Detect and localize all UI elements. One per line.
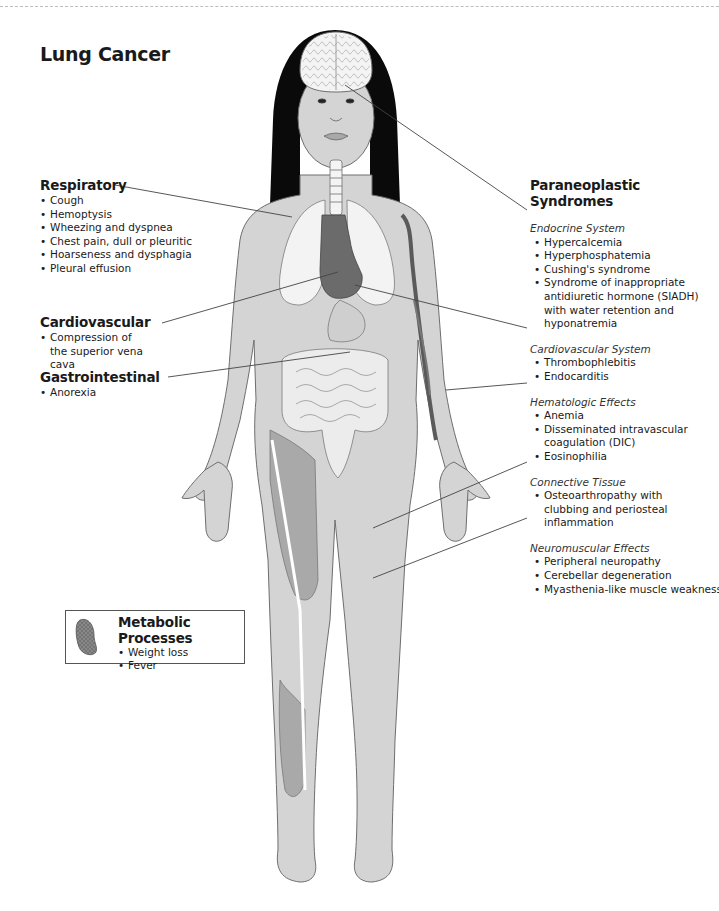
list-item: Syndrome of inappropriate antidiuretic h… (534, 276, 704, 330)
paraneoplastic-section: Paraneoplastic Syndromes Endocrine Syste… (530, 177, 715, 608)
group-title: Neuromuscular Effects (530, 542, 715, 556)
metabolic-processes-box: Metabolic Processes Weight loss Fever (65, 610, 245, 664)
list-item: Compression of the superior vena cava (40, 331, 150, 372)
gastrointestinal-heading: Gastrointestinal (40, 369, 170, 385)
cardiovascular-list: Compression of the superior vena cava (40, 331, 150, 372)
list-item: Anorexia (40, 386, 170, 400)
metabolic-text: Metabolic Processes Weight loss Fever (118, 614, 244, 672)
hematologic-group: Hematologic Effects Anemia Disseminated … (530, 396, 715, 464)
cardiovascular-system-group: Cardiovascular System Thrombophlebitis E… (530, 343, 715, 384)
cardiovascular-heading: Cardiovascular (40, 314, 150, 330)
left-hand (440, 462, 490, 541)
group-title: Cardiovascular System (530, 343, 715, 357)
group-title: Hematologic Effects (530, 396, 715, 410)
list-item: Endocarditis (534, 370, 715, 384)
list-item: Hoarseness and dysphagia (40, 248, 220, 262)
list-item: Wheezing and dyspnea (40, 221, 220, 235)
neuromuscular-group: Neuromuscular Effects Peripheral neuropa… (530, 542, 715, 596)
list-item: Eosinophilia (534, 450, 715, 464)
connective-tissue-group: Connective Tissue Osteoarthropathy with … (530, 476, 715, 530)
respiratory-heading: Respiratory (40, 177, 220, 193)
list-item: Cushing's syndrome (534, 263, 715, 277)
list-item: Myasthenia-like muscle weakness (534, 583, 715, 597)
list-item: Osteoarthropathy with clubbing and perio… (534, 489, 709, 530)
mitochondrion-icon (74, 617, 100, 657)
group-title: Endocrine System (530, 222, 715, 236)
gastrointestinal-list: Anorexia (40, 386, 170, 400)
trachea (330, 160, 342, 215)
list-item: Thrombophlebitis (534, 356, 715, 370)
list-item: Cough (40, 194, 220, 208)
list-item: Weight loss (118, 646, 244, 659)
right-hand (182, 462, 232, 541)
cardiovascular-section: Cardiovascular Compression of the superi… (40, 314, 150, 372)
respiratory-section: Respiratory Cough Hemoptysis Wheezing an… (40, 177, 220, 276)
metabolic-heading: Metabolic Processes (118, 614, 244, 646)
endocrine-group: Endocrine System Hypercalcemia Hyperphos… (530, 222, 715, 331)
group-title: Connective Tissue (530, 476, 715, 490)
list-item: Peripheral neuropathy (534, 555, 715, 569)
list-item: Chest pain, dull or pleuritic (40, 235, 220, 249)
list-item: Disseminated intravascular coagulation (… (534, 423, 694, 450)
list-item: Fever (118, 659, 244, 672)
list-item: Pleural effusion (40, 262, 220, 276)
list-item: Cerebellar degeneration (534, 569, 715, 583)
respiratory-list: Cough Hemoptysis Wheezing and dyspnea Ch… (40, 194, 220, 276)
list-item: Hypercalcemia (534, 236, 715, 250)
list-item: Hemoptysis (40, 208, 220, 222)
paraneoplastic-heading: Paraneoplastic Syndromes (530, 177, 715, 209)
list-item: Anemia (534, 409, 715, 423)
gastrointestinal-section: Gastrointestinal Anorexia (40, 369, 170, 400)
list-item: Hyperphosphatemia (534, 249, 715, 263)
